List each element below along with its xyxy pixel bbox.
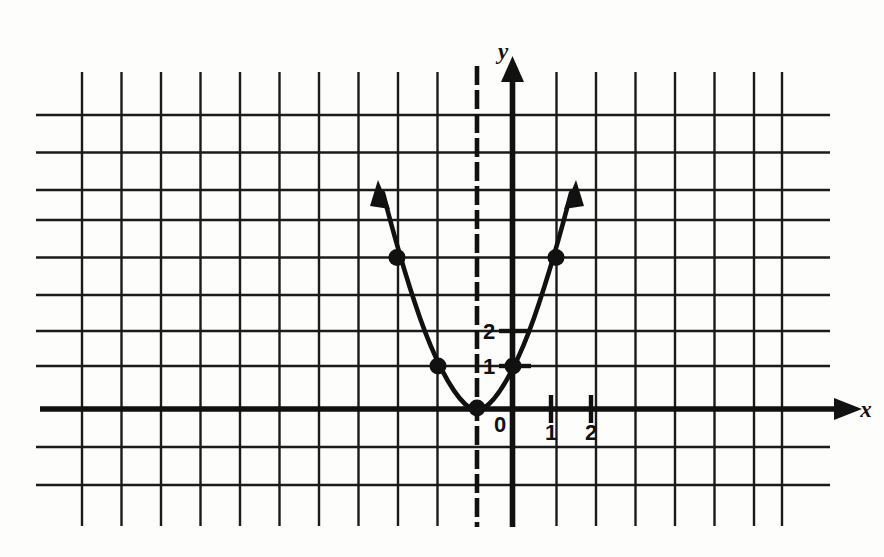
y-axis	[501, 56, 524, 527]
y-tick-label-2: 2	[483, 319, 495, 344]
plotted-point	[548, 249, 565, 266]
arrow-up-left-icon	[370, 180, 390, 209]
origin-label: 0	[494, 412, 506, 437]
y-axis-label: y	[495, 39, 509, 64]
x-axis-label: x	[859, 397, 872, 422]
grid-vertical-lines	[82, 72, 782, 526]
x-tick-label-1: 1	[545, 420, 557, 445]
plotted-point-vertex	[469, 400, 486, 417]
arrow-right-icon	[834, 398, 862, 420]
x-axis	[40, 398, 862, 420]
graph-figure: y x 0 1 2 1 2	[0, 0, 884, 557]
plotted-point	[389, 249, 406, 266]
plotted-point-y-intercept	[505, 358, 522, 375]
grid-horizontal-lines	[36, 115, 830, 485]
y-tick-label-1: 1	[483, 354, 495, 379]
arrow-up-right-icon	[564, 180, 584, 209]
coordinate-plane-svg: y x 0 1 2 1 2	[0, 0, 884, 557]
x-tick-label-2: 2	[585, 420, 597, 445]
plotted-point	[430, 358, 447, 375]
